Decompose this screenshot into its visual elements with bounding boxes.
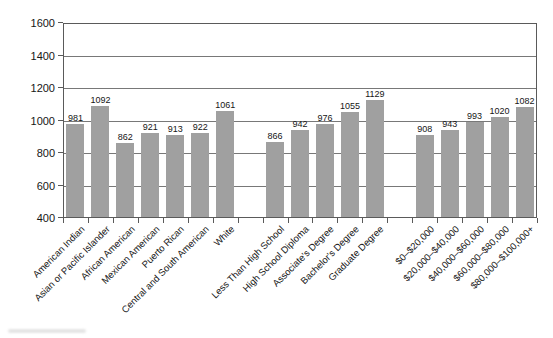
bar	[366, 100, 384, 217]
bar-value-label: 1082	[503, 96, 547, 106]
y-axis-tick-label: 1200	[0, 82, 55, 94]
gridline	[64, 88, 536, 89]
bar	[141, 133, 159, 217]
bar-value-label: 922	[178, 122, 222, 132]
bar	[291, 130, 309, 217]
x-axis-tick	[163, 218, 164, 223]
bar	[266, 142, 284, 217]
bar	[316, 124, 334, 217]
x-axis-tick	[238, 218, 239, 223]
x-axis-tick	[537, 218, 538, 223]
x-axis-tick-label: White	[212, 224, 236, 248]
y-axis-tick-label: 1400	[0, 50, 55, 62]
y-axis-tick-label: 400	[0, 212, 55, 224]
bar	[416, 135, 434, 217]
x-axis-tick	[213, 218, 214, 223]
y-axis-tick	[58, 22, 63, 23]
x-axis-tick	[337, 218, 338, 223]
bar	[516, 107, 534, 217]
y-axis-tick-label: 600	[0, 180, 55, 192]
bar	[66, 124, 84, 217]
bar	[466, 122, 484, 217]
bar	[166, 135, 184, 217]
x-axis-tick	[487, 218, 488, 223]
x-axis-tick	[263, 218, 264, 223]
x-axis-tick	[113, 218, 114, 223]
bar-value-label: 1129	[353, 89, 397, 99]
scan-artifact-smudge	[8, 329, 86, 333]
bar-value-label: 1055	[328, 101, 372, 111]
bar-chart-figure: 4006008001000120014001600981American Ind…	[0, 0, 553, 338]
bar-value-label: 976	[303, 113, 347, 123]
bar-value-label: 866	[253, 131, 297, 141]
x-axis-tick	[188, 218, 189, 223]
x-axis-tick	[138, 218, 139, 223]
bar-value-label: 1061	[203, 100, 247, 110]
x-axis-tick	[512, 218, 513, 223]
x-axis-tick	[462, 218, 463, 223]
gridline	[64, 56, 536, 57]
x-axis-tick	[437, 218, 438, 223]
bar	[191, 133, 209, 217]
y-axis-tick	[58, 185, 63, 186]
bar	[341, 112, 359, 217]
x-axis-tick	[412, 218, 413, 223]
x-axis-tick	[362, 218, 363, 223]
bar	[491, 117, 509, 217]
x-axis-tick	[288, 218, 289, 223]
x-axis-tick	[88, 218, 89, 223]
x-axis-tick	[387, 218, 388, 223]
bar-value-label: 981	[53, 113, 97, 123]
y-axis-tick	[58, 87, 63, 88]
bar-value-label: 862	[103, 132, 147, 142]
y-axis-tick	[58, 152, 63, 153]
bar-value-label: 1092	[78, 95, 122, 105]
x-axis-tick	[312, 218, 313, 223]
y-axis-tick-label: 800	[0, 147, 55, 159]
bar	[116, 143, 134, 217]
x-axis-tick	[63, 218, 64, 223]
y-axis-tick	[58, 55, 63, 56]
y-axis-tick-label: 1000	[0, 115, 55, 127]
bar-value-label: 1020	[478, 106, 522, 116]
bar	[441, 130, 459, 217]
y-axis-tick-label: 1600	[0, 17, 55, 29]
